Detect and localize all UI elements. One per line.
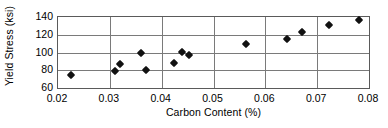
gridline-vertical — [162, 17, 163, 88]
data-point — [283, 35, 291, 43]
x-tick-label: 0.02 — [37, 93, 77, 104]
x-axis-title: Carbon Content (%) — [57, 106, 370, 118]
data-point — [137, 49, 145, 57]
y-tick-label: 140 — [23, 11, 53, 22]
y-tick-label: 60 — [23, 82, 53, 93]
y-tick-label: 80 — [23, 64, 53, 75]
data-point — [242, 39, 250, 47]
x-tick-label: 0.08 — [348, 93, 388, 104]
data-point — [324, 21, 332, 29]
data-point — [169, 59, 177, 67]
gridline-vertical — [214, 17, 215, 88]
data-point — [116, 60, 124, 68]
scatter-plot-figure: Yield Stress (ksi) 6080100120140 0.020.0… — [0, 0, 388, 128]
y-axis-tick-labels: 6080100120140 — [20, 16, 53, 89]
gridline-vertical — [110, 17, 111, 88]
y-tick-label: 100 — [23, 46, 53, 57]
y-axis-title: Yield Stress (ksi) — [0, 0, 18, 92]
x-tick-label: 0.06 — [244, 93, 284, 104]
data-point — [111, 67, 119, 75]
data-point — [67, 70, 75, 78]
x-tick-label: 0.04 — [141, 93, 181, 104]
plot-area — [57, 16, 370, 89]
gridline-vertical — [265, 17, 266, 88]
x-tick-label: 0.05 — [193, 93, 233, 104]
y-tick-label: 120 — [23, 29, 53, 40]
x-tick-label: 0.07 — [296, 93, 336, 104]
data-point — [142, 66, 150, 74]
gridline-vertical — [317, 17, 318, 88]
data-point — [355, 15, 363, 23]
x-axis-tick-labels: 0.020.030.040.050.060.070.08 — [57, 93, 370, 107]
y-axis-title-text: Yield Stress (ksi) — [3, 6, 15, 86]
x-tick-label: 0.03 — [89, 93, 129, 104]
